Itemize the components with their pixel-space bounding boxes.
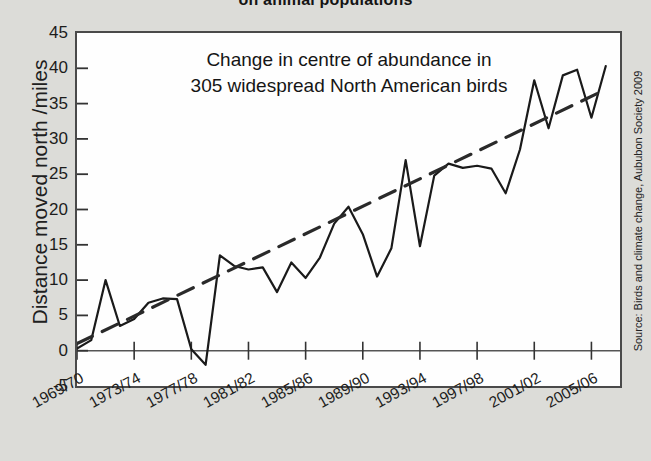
y-tick-label-2: 35 xyxy=(28,94,68,114)
y-tick-label-1: 40 xyxy=(28,58,68,78)
y-tick-label-0: 45 xyxy=(28,23,68,43)
source-credit: Source: Birds and climate change, Aububo… xyxy=(632,46,644,376)
chart-annotation: Change in centre of abundance in 305 wid… xyxy=(139,47,559,99)
y-tick-label-3: 30 xyxy=(28,129,68,149)
plot-area: Change in centre of abundance in 305 wid… xyxy=(75,31,622,388)
annotation-line-2: 305 widespread North American birds xyxy=(139,73,559,99)
annotation-line-1: Change in centre of abundance in xyxy=(139,47,559,73)
y-tick-label-5: 20 xyxy=(28,200,68,220)
page-title: on animal populations xyxy=(0,0,651,9)
trend-line xyxy=(77,89,606,343)
y-tick-label-8: 5 xyxy=(28,305,68,325)
y-tick-label-7: 10 xyxy=(28,270,68,290)
y-axis-tick-labels: 454035302520151050-5 xyxy=(22,31,68,388)
chart-page: on animal populations Distance moved nor… xyxy=(0,0,651,461)
y-tick-label-4: 25 xyxy=(28,164,68,184)
y-tick-label-9: 0 xyxy=(28,341,68,361)
y-tick-label-6: 15 xyxy=(28,235,68,255)
x-axis-tick-labels: 1969/701973/741977/781981/821985/861989/… xyxy=(0,396,651,456)
